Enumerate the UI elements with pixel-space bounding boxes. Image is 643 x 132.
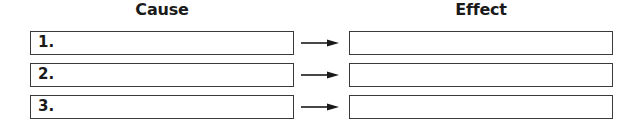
cause-heading: Cause [30,0,294,19]
cause-box-3[interactable]: 3. [30,95,294,119]
effect-box-3[interactable] [349,95,613,119]
row-number-2: 2. [38,65,54,83]
right-arrow-icon [301,38,339,48]
row-number-3: 3. [38,97,54,115]
cause-box-1[interactable]: 1. [30,31,294,55]
cause-box-2[interactable]: 2. [30,63,294,87]
right-arrow-icon [301,70,339,80]
effect-box-1[interactable] [349,31,613,55]
effect-box-2[interactable] [349,63,613,87]
right-arrow-icon [301,102,339,112]
row-number-1: 1. [38,33,54,51]
effect-heading: Effect [349,0,613,19]
